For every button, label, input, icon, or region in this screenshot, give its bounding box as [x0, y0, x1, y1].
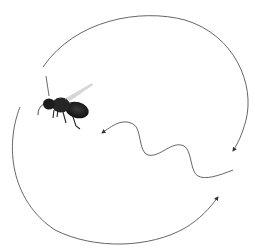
return-loop-bottom-arrow: [12, 107, 218, 244]
waggle-run-arrow: [102, 122, 233, 178]
bee-mouthparts: [38, 104, 44, 115]
bee-icon: [38, 76, 93, 129]
bee-head: [43, 99, 55, 110]
bee-antenna: [46, 76, 49, 96]
bee-wing: [66, 83, 93, 101]
return-loop-top-arrow: [43, 16, 248, 151]
waggle-dance-diagram: [0, 0, 255, 252]
